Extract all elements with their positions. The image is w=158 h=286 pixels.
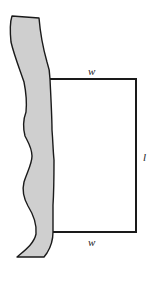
label-bottom-width: w <box>88 236 96 248</box>
river-shape <box>10 16 54 257</box>
label-length: l <box>143 151 146 163</box>
label-top-width: w <box>88 65 96 77</box>
fence-rectangle <box>50 79 136 232</box>
diagram-canvas: w l w <box>0 0 158 286</box>
